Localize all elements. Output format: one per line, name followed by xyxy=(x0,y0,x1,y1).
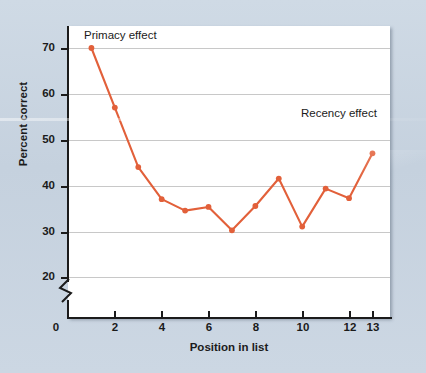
data-point xyxy=(299,224,305,230)
x-axis-title: Position in list xyxy=(68,341,390,353)
y-tick-label-70: 70 xyxy=(25,42,55,54)
data-point xyxy=(112,105,118,111)
data-point xyxy=(346,195,352,201)
x-tick-10 xyxy=(302,311,304,318)
y-tick-30 xyxy=(61,232,68,234)
x-tick-label-4: 4 xyxy=(149,322,175,334)
x-tick-label-13: 13 xyxy=(360,322,386,334)
y-axis-title: Percent correct xyxy=(17,64,29,184)
y-tick-50 xyxy=(61,140,68,142)
data-point xyxy=(252,203,258,209)
x-tick-label-6: 6 xyxy=(196,322,222,334)
annotation-recency-effect: Recency effect xyxy=(301,107,377,119)
serial-position-chart-figure: 70 60 50 40 30 20 0 2 4 6 8 10 12 13 Per… xyxy=(0,0,426,373)
series-markers xyxy=(89,45,376,233)
x-tick-4 xyxy=(161,311,163,318)
y-tick-40 xyxy=(61,186,68,188)
x-tick-label-10: 10 xyxy=(290,322,316,334)
plot-area xyxy=(68,26,390,318)
y-tick-label-40: 40 xyxy=(25,180,55,192)
series-line-percent-correct xyxy=(91,48,372,230)
x-tick-label-8: 8 xyxy=(243,322,269,334)
y-tick-label-60: 60 xyxy=(25,88,55,100)
x-tick-6 xyxy=(208,311,210,318)
data-point xyxy=(89,45,95,51)
series-plot xyxy=(68,26,390,318)
data-point xyxy=(159,196,165,202)
y-tick-60 xyxy=(61,94,68,96)
x-tick-label-2: 2 xyxy=(102,322,128,334)
x-tick-2 xyxy=(114,311,116,318)
data-point xyxy=(182,208,188,214)
y-tick-label-20: 20 xyxy=(25,271,55,283)
y-axis-line xyxy=(67,26,69,282)
data-point xyxy=(206,204,212,210)
data-point xyxy=(135,164,141,170)
x-tick-label-0: 0 xyxy=(43,322,69,334)
y-tick-label-30: 30 xyxy=(25,226,55,238)
data-point xyxy=(229,227,235,233)
annotation-primacy-effect: Primacy effect xyxy=(84,29,157,41)
axis-break-zigzag-icon xyxy=(58,279,80,303)
y-tick-70 xyxy=(61,48,68,50)
x-tick-12 xyxy=(349,311,351,318)
data-point xyxy=(323,186,329,192)
x-tick-13 xyxy=(372,311,374,318)
data-point xyxy=(370,150,376,156)
data-point xyxy=(276,176,282,182)
y-tick-label-50: 50 xyxy=(25,134,55,146)
x-tick-8 xyxy=(255,311,257,318)
x-tick-0 xyxy=(67,311,69,318)
